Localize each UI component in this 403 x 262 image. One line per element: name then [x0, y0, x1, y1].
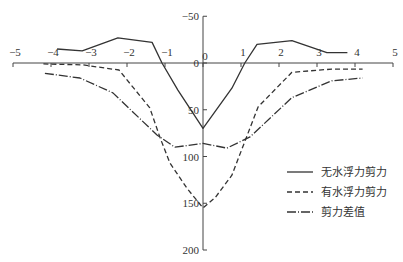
- x-tick-label: 4: [354, 46, 360, 58]
- x-tick-label: −1: [161, 46, 173, 58]
- y-tick-label: 0: [194, 57, 200, 69]
- legend-label-no-buoyancy: 无水浮力剪力: [321, 165, 387, 179]
- x-tick-label: −2: [123, 46, 135, 58]
- x-tick-label: 1: [240, 46, 246, 58]
- x-tick-label: 2: [278, 46, 284, 58]
- legend-label-difference: 剪力差值: [321, 205, 365, 219]
- legend: 无水浮力剪力 有水浮力剪力 剪力差值: [287, 165, 387, 219]
- x-tick-label: −5: [9, 46, 21, 58]
- shear-force-chart: −5−4−3−2−1012345−50050100150200 无水浮力剪力 有…: [0, 0, 403, 262]
- x-tick-label: 5: [392, 46, 398, 58]
- y-tick-label: −50: [182, 10, 200, 22]
- y-tick-label: 100: [183, 151, 200, 163]
- legend-label-with-buoyancy: 有水浮力剪力: [321, 185, 387, 199]
- axes: −5−4−3−2−1012345−50050100150200: [9, 10, 398, 256]
- y-tick-label: 200: [183, 244, 200, 256]
- y-tick-label: 150: [183, 197, 200, 209]
- x-tick-label: 0: [202, 50, 208, 62]
- x-tick-label: 3: [316, 46, 322, 58]
- x-tick-label: −4: [47, 46, 59, 58]
- series-dashdot-line: [45, 73, 363, 148]
